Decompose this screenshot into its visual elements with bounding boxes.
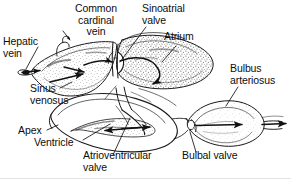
label-atrioventricular-valve: Atrioventricular valve: [83, 150, 169, 173]
bottom-divider: [0, 178, 291, 179]
label-sinus-venosus: Sinus venosus: [30, 83, 82, 106]
flow-arrow-bulbus: [196, 125, 242, 126]
flow-arrow-ventral-aorta: [262, 124, 286, 125]
label-hepatic-vein: Hepatic vein: [3, 36, 57, 59]
label-sinoatrial-valve: Sinoatrial valve: [142, 3, 214, 26]
label-bulbus-arteriosus: Bulbus arteriosus: [230, 63, 290, 86]
label-atrium: Atrium: [164, 31, 220, 43]
label-apex: Apex: [18, 125, 58, 137]
label-bulbal-valve: Bulbal valve: [182, 150, 258, 162]
figure-root: Common cardinal vein Sinoatrial valve At…: [0, 0, 291, 179]
label-ventricle: Ventricle: [34, 137, 88, 149]
label-common-cardinal-vein: Common cardinal vein: [60, 3, 132, 38]
